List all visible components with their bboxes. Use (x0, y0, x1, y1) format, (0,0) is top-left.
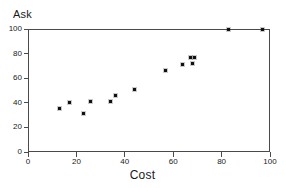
data-point (114, 94, 117, 97)
x-tick-label: 0 (16, 158, 40, 166)
plot-area-frame (28, 29, 270, 152)
y-tick-label: 20 (0, 123, 22, 131)
data-point (58, 107, 61, 110)
data-point (261, 28, 264, 31)
data-point (68, 101, 71, 104)
data-point (109, 100, 112, 103)
data-point (227, 28, 230, 31)
x-tick-label: 100 (258, 158, 282, 166)
y-tick-mark (24, 127, 29, 128)
data-point (193, 56, 196, 59)
y-tick-label: 40 (0, 99, 22, 107)
x-tick-label: 80 (210, 158, 234, 166)
x-axis-title: Cost (0, 168, 285, 182)
x-tick-label: 20 (64, 158, 88, 166)
data-point (82, 112, 85, 115)
y-tick-mark (24, 29, 29, 30)
data-point (181, 63, 184, 66)
y-tick-mark (24, 78, 29, 79)
x-tick-label: 60 (161, 158, 185, 166)
data-point (164, 69, 167, 72)
y-tick-label: 0 (0, 148, 22, 156)
y-axis-title: Ask (13, 8, 32, 20)
y-tick-label: 100 (0, 25, 22, 33)
data-point (133, 88, 136, 91)
y-tick-mark (24, 53, 29, 54)
y-tick-mark (24, 102, 29, 103)
data-point (89, 100, 92, 103)
x-tick-label: 40 (113, 158, 137, 166)
scatter-chart-figure: Ask 020406080100 020406080100 Cost (0, 0, 285, 188)
y-tick-label: 80 (0, 50, 22, 58)
data-point (189, 56, 192, 59)
y-tick-label: 60 (0, 74, 22, 82)
data-point (191, 62, 194, 65)
